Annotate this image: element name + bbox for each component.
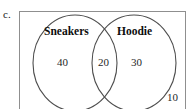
region-count-sneakers-only: 40 bbox=[57, 56, 68, 68]
set-label-hoodie: Hoodie bbox=[117, 25, 152, 37]
region-count-outside: 10 bbox=[167, 91, 178, 103]
region-count-intersection: 20 bbox=[98, 56, 109, 68]
venn-circles-svg bbox=[0, 0, 190, 109]
venn-diagram-screenshot: c. Sneakers Hoodie 40 20 30 10 bbox=[0, 0, 190, 109]
set-label-sneakers: Sneakers bbox=[44, 25, 89, 37]
region-count-hoodie-only: 30 bbox=[131, 56, 142, 68]
